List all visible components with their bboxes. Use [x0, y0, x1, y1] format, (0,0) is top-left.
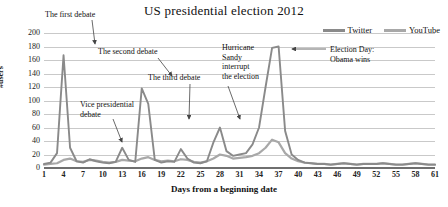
y-tick-label: 80: [32, 110, 40, 118]
x-tick-label: 43: [314, 170, 322, 179]
legend-swatch-youtube: [384, 29, 406, 32]
x-tick-label: 55: [392, 170, 400, 179]
x-tick-label: 34: [255, 170, 263, 179]
x-tick-label: 25: [196, 170, 204, 179]
series-line-youtube: [44, 140, 435, 165]
x-tick-label: 31: [236, 170, 244, 179]
x-tick-label: 16: [138, 170, 146, 179]
x-tick-label: 1: [42, 170, 46, 179]
x-tick-label: 19: [157, 170, 165, 179]
y-tick-label: 20: [32, 151, 40, 159]
x-axis-label: Days from a beginning date: [0, 184, 448, 194]
annotation-third-debate: The third debate: [148, 73, 200, 83]
y-axis-label: #users: [0, 66, 5, 88]
y-tick-label: 200: [28, 29, 40, 37]
y-tick-label: 40: [32, 137, 40, 145]
legend-swatch-twitter: [323, 29, 345, 32]
y-tick-label: 0: [36, 164, 40, 172]
y-tick-label: 160: [28, 56, 40, 64]
x-tick-label: 13: [118, 170, 126, 179]
x-tick-label: 7: [81, 170, 85, 179]
x-tick-label: 58: [411, 170, 419, 179]
y-tick-label: 100: [28, 97, 40, 105]
x-tick-label: 49: [353, 170, 361, 179]
y-axis-ticks: 020406080100120140160180200: [0, 33, 44, 168]
annotation-election-day: Election Day: Obama wins: [330, 45, 374, 64]
y-tick-label: 60: [32, 124, 40, 132]
chart-container: US presidential election 2012 Twitter Yo…: [0, 0, 448, 207]
x-tick-label: 52: [372, 170, 380, 179]
x-tick-label: 22: [177, 170, 185, 179]
x-tick-label: 61: [431, 170, 439, 179]
annotation-hurricane-sandy: Hurricane Sandy interrupt the election: [222, 43, 259, 81]
y-tick-label: 140: [28, 70, 40, 78]
annotation-second-debate: The second debate: [98, 47, 158, 57]
y-tick-label: 180: [28, 43, 40, 51]
x-axis-ticks: 147101316192225283134374043464952555861: [44, 170, 435, 182]
x-tick-label: 46: [333, 170, 341, 179]
annotation-vice-presidential-debate: Vice presidential debate: [80, 100, 134, 119]
x-tick-label: 10: [99, 170, 107, 179]
x-tick-label: 28: [216, 170, 224, 179]
x-tick-label: 37: [275, 170, 283, 179]
grid-line: [44, 168, 435, 169]
x-tick-label: 4: [62, 170, 66, 179]
x-tick-label: 40: [294, 170, 302, 179]
y-tick-label: 120: [28, 83, 40, 91]
annotation-first-debate: The first debate: [45, 10, 95, 20]
